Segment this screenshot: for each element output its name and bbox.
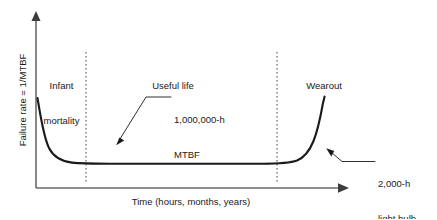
- x-axis: [36, 183, 349, 192]
- annotation-light-bulb: 2,000-h light bulb: [378, 155, 416, 219]
- lightbulb-arrowhead: [326, 148, 334, 156]
- region-label-useful-life-line1: Useful life: [130, 80, 216, 92]
- x-axis-label: Time (hours, months, years): [36, 196, 346, 208]
- mtbf-arrowhead: [116, 138, 124, 146]
- annotation-mtbf-line2: MTBF: [174, 149, 225, 161]
- annotation-mtbf: 1,000,000-h MTBF: [174, 91, 225, 183]
- lightbulb-leader: [326, 148, 375, 161]
- region-label-infant-mortality: Infant mortality: [38, 57, 85, 149]
- region-label-infant-mortality-line2: mortality: [38, 115, 85, 127]
- region-label-wearout-line1: Wearout: [288, 80, 360, 92]
- annotation-light-bulb-line1: 2,000-h: [378, 178, 416, 190]
- y-axis-arrowhead: [32, 11, 41, 21]
- annotation-light-bulb-line2: light bulb: [378, 213, 416, 220]
- bathtub-curve-figure: Failure rate = 1/MTBF Time (hours, month…: [0, 0, 437, 219]
- annotation-mtbf-line1: 1,000,000-h: [174, 114, 225, 126]
- y-axis-label: Failure rate = 1/MTBF: [17, 54, 28, 147]
- region-label-infant-mortality-line1: Infant: [38, 80, 85, 92]
- region-label-wearout: Wearout: [288, 57, 360, 115]
- x-axis-arrowhead: [338, 183, 349, 192]
